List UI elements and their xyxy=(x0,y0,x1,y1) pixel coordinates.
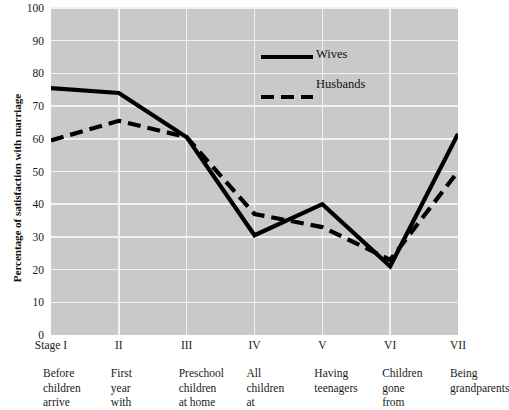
x-caption-line: children xyxy=(179,381,224,396)
x-caption-line: gone xyxy=(382,381,422,396)
y-tick-label: 30 xyxy=(8,232,44,242)
legend-swatch-husbands xyxy=(261,85,313,89)
x-caption-line: with xyxy=(111,395,132,410)
x-caption-line: children xyxy=(247,381,285,396)
y-tick-label: 90 xyxy=(8,36,44,46)
x-caption-line: Preschool xyxy=(179,366,224,381)
x-caption-line: from xyxy=(382,395,422,410)
x-caption: Beforechildrenarrive xyxy=(43,366,81,410)
x-caption: Childrengonefrom xyxy=(382,366,422,410)
legend-swatch-wives xyxy=(261,55,313,59)
x-caption: Allchildrenat xyxy=(247,366,285,410)
x-caption-line: year xyxy=(111,381,132,396)
y-tick-label: 100 xyxy=(8,3,44,13)
y-tick-label: 50 xyxy=(8,167,44,177)
plot-area: Wives Husbands xyxy=(51,8,458,335)
x-caption-line: children xyxy=(43,381,81,396)
legend-label-wives: Wives xyxy=(316,47,347,62)
x-caption: Beinggrandparents xyxy=(450,366,509,395)
y-tick-label: 40 xyxy=(8,199,44,209)
y-tick-label: 70 xyxy=(8,101,44,111)
y-tick-label: 20 xyxy=(8,265,44,275)
x-caption: Preschoolchildrenat home xyxy=(179,366,224,410)
data-series-lines xyxy=(51,8,458,335)
x-caption: Havingteenagers xyxy=(314,366,357,395)
x-caption-line: arrive xyxy=(43,395,81,410)
x-caption-line: at home xyxy=(179,395,224,410)
x-caption-line: All xyxy=(247,366,285,381)
x-caption-line: Before xyxy=(43,366,81,381)
line-series-husbands xyxy=(51,121,458,260)
y-tick-label: 80 xyxy=(8,68,44,78)
y-tick-label: 10 xyxy=(8,297,44,307)
dashed-swatch-icon xyxy=(261,95,313,99)
x-caption-line: Being xyxy=(450,366,509,381)
x-caption-line: Having xyxy=(314,366,357,381)
x-caption-line: grandparents xyxy=(450,381,509,396)
y-tick-label: 60 xyxy=(8,134,44,144)
line-series-wives xyxy=(51,88,458,266)
x-caption-line: teenagers xyxy=(314,381,357,396)
x-tick-label: VII xyxy=(418,339,498,351)
x-caption-line: Children xyxy=(382,366,422,381)
x-caption: Firstyearwith xyxy=(111,366,132,410)
x-caption-line: at xyxy=(247,395,285,410)
x-caption-line: First xyxy=(111,366,132,381)
legend-label-husbands: Husbands xyxy=(316,77,365,92)
